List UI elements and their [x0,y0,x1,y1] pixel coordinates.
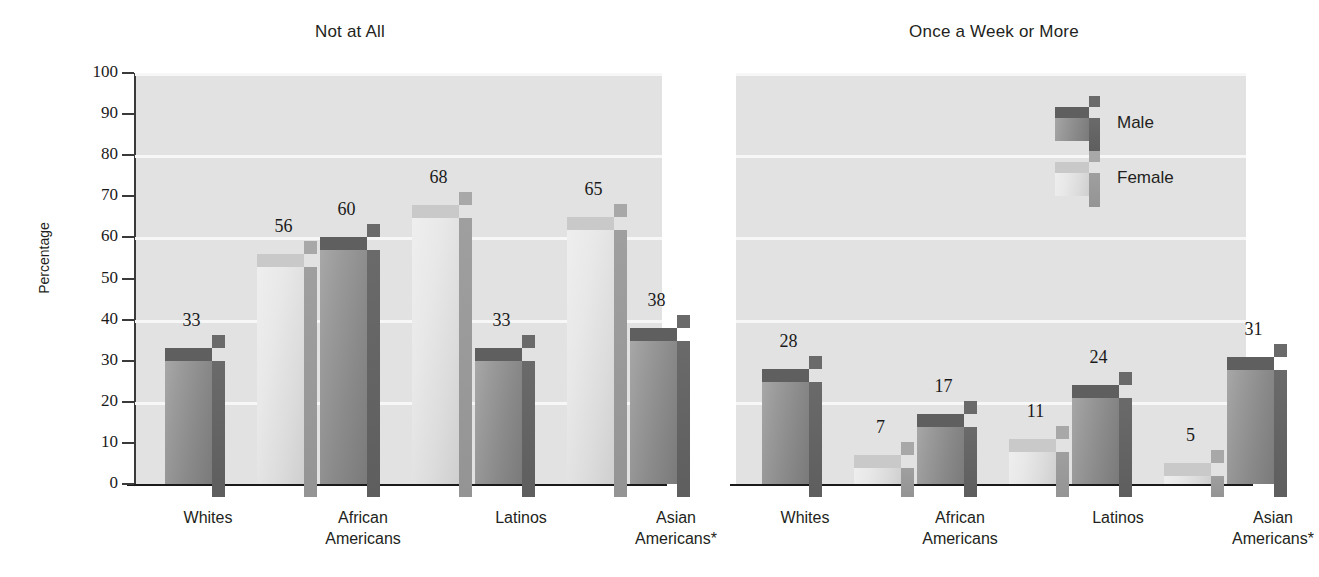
bar-value-label: 68 [409,167,469,188]
category-label: AfricanAmericans [885,507,1035,549]
bar-side-face [522,361,535,497]
bar-value-label: 31 [1224,319,1284,340]
bar-value-label: 38 [627,290,687,311]
bar-top-face [567,217,614,230]
y-axis-tick-label: 30 [78,350,118,370]
bar-side-face [367,250,380,497]
y-axis-line [134,73,136,485]
bar-value-label: 11 [1006,401,1066,422]
bar-top-face [854,455,901,468]
legend-swatch-top [1055,107,1089,118]
bar-side-face [212,361,225,497]
y-axis-tick [122,72,134,74]
y-axis-tick [122,442,134,444]
bar-side-face [964,427,977,497]
bar-side-face [901,468,914,497]
bar-front-face [1072,385,1119,484]
legend-swatch-topwedge [1089,96,1100,107]
bar-male [165,348,212,484]
y-axis-tick [122,319,134,321]
bar-top-face [1009,439,1056,452]
y-axis-tick-label: 80 [78,144,118,164]
y-axis-tick-label: 60 [78,226,118,246]
bar-side-face [459,218,472,497]
category-label: Latinos [446,507,596,528]
bar-value-label: 65 [564,179,624,200]
bar-female [854,455,901,484]
gridline [135,155,662,158]
y-axis-tick [122,154,134,156]
y-axis-title: Percentage [36,198,52,318]
legend-swatch-female [1055,162,1089,196]
gridline [736,237,1246,240]
category-label-line1: Asian [1198,507,1319,528]
bar-female [1009,439,1056,484]
bar-value-label: 60 [317,199,377,220]
y-axis-tick-label: 90 [78,103,118,123]
bar-male [320,237,367,484]
y-axis-tick-label: 70 [78,185,118,205]
gridline [736,155,1246,158]
bar-top-wedge [964,401,977,414]
panel-title-right: Once a Week or More [700,22,1288,42]
bar-value-label: 56 [254,216,314,237]
y-axis-tick-label: 10 [78,432,118,452]
category-label: Latinos [1043,507,1193,528]
y-axis-tick-label: 20 [78,391,118,411]
bar-front-face [165,348,212,484]
gridline [135,73,662,76]
bar-value-label: 7 [851,417,911,438]
category-label-line1: African [885,507,1035,528]
y-axis-tick [122,360,134,362]
bar-top-wedge [677,315,690,328]
bar-side-face [1274,370,1287,497]
y-axis-tick [122,278,134,280]
category-label-line1: Whites [730,507,880,528]
bar-front-face [412,205,459,484]
y-axis-tick-label: 0 [78,473,118,493]
bar-male [630,328,677,484]
legend-label: Male [1117,113,1154,133]
bar-value-label: 24 [1069,347,1129,368]
bar-male [762,369,809,484]
legend-swatch-male [1055,107,1089,141]
bar-side-face [614,230,627,497]
bar-male [475,348,522,484]
y-axis-tick-label: 100 [78,62,118,82]
bar-front-face [762,369,809,484]
bar-side-face [1056,452,1069,497]
category-label: AfricanAmericans [288,507,438,549]
bar-front-face [567,217,614,484]
bar-female [257,254,304,484]
bar-top-face [320,237,367,250]
bar-side-face [677,341,690,497]
bar-top-face [1164,463,1211,476]
bar-top-face [1227,357,1274,370]
panel-title-left: Not at All [0,22,700,42]
bar-top-wedge [614,204,627,217]
y-axis-tick [122,195,134,197]
bar-front-face [1227,357,1274,484]
bar-top-wedge [459,192,472,205]
bar-side-face [809,382,822,497]
bar-top-face [475,348,522,361]
gridline [736,320,1246,323]
bar-value-label: 28 [759,331,819,352]
y-axis-tick [122,483,134,485]
bar-female [567,217,614,484]
legend-swatch-top [1055,162,1089,173]
bar-top-wedge [1119,372,1132,385]
bar-top-wedge [901,442,914,455]
y-axis-tick [122,401,134,403]
bar-male [1072,385,1119,484]
bar-value-label: 5 [1161,425,1221,446]
y-axis-tick [122,113,134,115]
bar-top-face [762,369,809,382]
bar-top-wedge [809,356,822,369]
bar-front-face [320,237,367,484]
category-label-line1: Latinos [446,507,596,528]
chart-panel-not-at-all: Not at All Percentage 100908070605040302… [0,0,700,577]
bar-front-face [475,348,522,484]
category-label-line1: Whites [133,507,283,528]
legend-swatch-side [1089,173,1100,207]
